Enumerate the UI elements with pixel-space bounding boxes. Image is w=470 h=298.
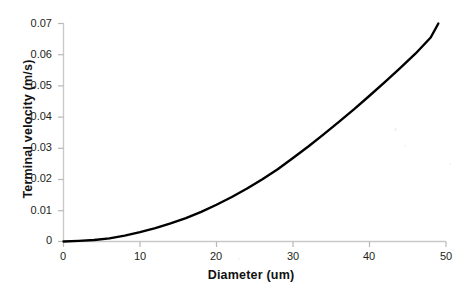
y-tick-label: 0.07 bbox=[14, 17, 52, 29]
x-tick-label: 10 bbox=[125, 250, 155, 262]
x-tick-label: 0 bbox=[48, 250, 78, 262]
x-tick-label: 40 bbox=[354, 250, 384, 262]
x-tick-label: 50 bbox=[431, 250, 461, 262]
y-tick-label: 0 bbox=[14, 234, 52, 246]
x-tick-label: 30 bbox=[278, 250, 308, 262]
y-axis-title: Terminal velocity (m/s) bbox=[21, 39, 35, 219]
x-axis-title: Diameter (um) bbox=[123, 268, 379, 282]
data-series-terminal-velocity bbox=[64, 24, 439, 242]
x-tick-marks bbox=[64, 242, 447, 248]
y-tick-marks bbox=[58, 24, 64, 242]
x-tick-label: 20 bbox=[201, 250, 231, 262]
chart-figure: 0.07 0.06 0.05 0.04 0.03 0.02 0.01 0 0 1… bbox=[0, 0, 470, 298]
